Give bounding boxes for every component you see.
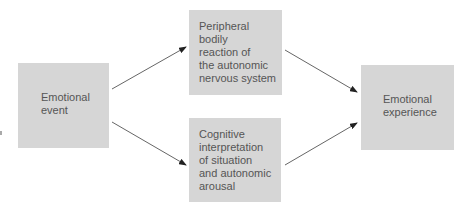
arrow-cognitive-to-experience	[285, 123, 357, 165]
node-line: bodily	[199, 33, 276, 46]
node-line: experience	[383, 106, 437, 119]
node-line: Emotional	[41, 91, 90, 104]
arrow-physio-to-experience	[285, 50, 357, 92]
node-line: arousal	[199, 180, 271, 193]
node-line: and autonomic	[199, 167, 271, 180]
node-cognitive-interpretation: Cognitive interpretation of situation an…	[189, 118, 281, 202]
arrow-event-to-physio	[112, 47, 186, 89]
node-peripheral-reaction: Peripheral bodily reaction of the autono…	[189, 10, 282, 95]
node-line: interpretation	[199, 141, 271, 154]
node-line: of situation	[199, 154, 271, 167]
node-line: nervous system	[199, 72, 276, 85]
node-line: Emotional	[383, 93, 437, 106]
node-line: Peripheral	[199, 20, 276, 33]
node-line: reaction of	[199, 46, 276, 59]
arrow-event-to-cognitive	[112, 122, 186, 165]
node-emotional-event: Emotional event	[18, 63, 109, 148]
node-emotional-experience: Emotional experience	[361, 65, 454, 150]
node-line: Cognitive	[199, 128, 271, 141]
node-line: the autonomic	[199, 59, 276, 72]
node-line: event	[41, 104, 90, 117]
